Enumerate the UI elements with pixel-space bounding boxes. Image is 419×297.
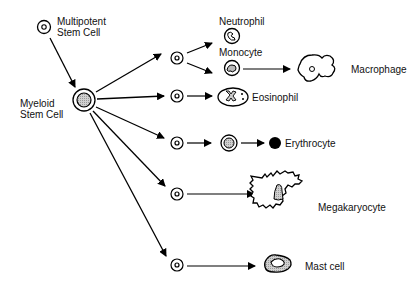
erythrocyte-icon [269,137,281,149]
label-megakaryocyte: Megakaryocyte [318,202,386,213]
label-monocyte: Monocyte [219,47,262,58]
megakaryocyte-icon [250,171,302,208]
label-mast-cell: Mast cell [305,261,344,272]
label-multipotent: MultipotentStem Cell [57,16,106,38]
macrophage-icon [298,55,335,81]
label-macrophage: Macrophage [351,64,407,75]
progenitor-icon [171,52,183,271]
label-erythrocyte: Erythrocyte [285,138,336,149]
eosinophil-icon [218,88,248,106]
myeloid-stem-cell-icon [73,89,95,111]
lineage-diagram [0,0,419,297]
erythroblast-icon [221,135,237,151]
neutrophil-icon [225,29,240,44]
mast-cell-icon [265,255,291,272]
label-neutrophil: Neutrophil [219,16,265,27]
label-eosinophil: Eosinophil [252,92,298,103]
multipotent-stem-cell-icon [38,21,51,34]
arrow-multipotent-to-myeloid [50,38,75,87]
monocyte-icon [225,61,240,76]
label-myeloid: MyeloidStem Cell [20,98,63,120]
